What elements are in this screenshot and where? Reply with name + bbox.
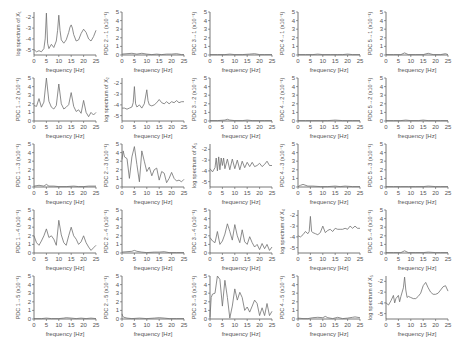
panel-3-3: 0510152025-5-4-3-2frequency [Hz]log spec… xyxy=(191,143,276,205)
x-tick-label: 5 xyxy=(133,58,137,64)
y-axis-label: PDC 5→3 (x10⁻¹) xyxy=(367,144,373,188)
y-tick-label: 5 xyxy=(292,9,296,15)
y-tick-label: 1 xyxy=(116,175,120,181)
x-tick-label: 5 xyxy=(45,124,49,130)
x-tick-label: 25 xyxy=(357,58,364,64)
x-tick-label: 10 xyxy=(55,256,62,262)
y-tick-label: -5 xyxy=(26,47,32,53)
x-tick-label: 5 xyxy=(45,256,49,262)
y-tick-label: 5 xyxy=(28,207,32,213)
x-tick-label: 15 xyxy=(68,256,75,262)
x-tick-label: 10 xyxy=(143,322,150,328)
y-tick-label: 4 xyxy=(204,216,208,222)
x-tick-label: 10 xyxy=(143,190,150,196)
x-tick-label: 0 xyxy=(296,190,300,196)
y-axis-label: PDC 1→5 (x10⁻¹) xyxy=(15,276,21,320)
x-tick-label: 5 xyxy=(133,256,137,262)
pdc-curve xyxy=(210,224,272,251)
panel-5-1: 0510152025012345frequency [Hz]PDC 1→5 (x… xyxy=(15,273,100,337)
x-tick-label: 20 xyxy=(432,322,439,328)
y-axis-label: PDC 4→3 (x10⁻¹) xyxy=(279,144,285,188)
x-axis-label: frequency [Hz] xyxy=(222,133,261,139)
y-tick-label: 1 xyxy=(204,109,208,115)
y-tick-label: 1 xyxy=(28,175,32,181)
x-axis-label: frequency [Hz] xyxy=(398,199,437,205)
y-tick-label: 0 xyxy=(116,184,120,190)
x-tick-label: 10 xyxy=(407,190,414,196)
x-tick-label: 0 xyxy=(296,124,300,130)
y-tick-label: 0 xyxy=(380,184,384,190)
y-tick-label: 3 xyxy=(292,26,296,32)
y-tick-label: 2 xyxy=(204,101,208,107)
pdc-curve xyxy=(386,120,448,121)
y-axis-label: PDC 4→5 (x10⁻¹) xyxy=(279,276,285,320)
x-tick-label: 25 xyxy=(357,124,364,130)
y-tick-label: 1 xyxy=(204,43,208,49)
y-tick-label: 2 xyxy=(292,101,296,107)
x-axis-label: frequency [Hz] xyxy=(46,133,85,139)
panel-5-4: 0510152025012345frequency [Hz]PDC 4→5 (x… xyxy=(279,273,364,337)
y-tick-label: 0 xyxy=(380,250,384,256)
y-tick-label: 5 xyxy=(380,75,384,81)
x-tick-label: 15 xyxy=(68,124,75,130)
x-tick-label: 0 xyxy=(120,256,124,262)
pdc-curve xyxy=(122,53,184,54)
x-tick-label: 5 xyxy=(45,190,49,196)
x-tick-label: 25 xyxy=(269,58,276,64)
x-tick-label: 25 xyxy=(181,58,188,64)
y-tick-label: -5 xyxy=(378,311,384,317)
panel-2-2: 0510152025-5-4-3-2frequency [Hz]log spec… xyxy=(103,77,188,139)
x-tick-label: 25 xyxy=(181,190,188,196)
y-tick-label: 5 xyxy=(116,9,120,15)
y-tick-label: -2 xyxy=(378,278,384,284)
x-tick-label: 0 xyxy=(32,190,36,196)
y-tick-label: 2 xyxy=(28,167,32,173)
x-tick-label: 15 xyxy=(244,190,251,196)
y-tick-label: 1 xyxy=(204,307,208,313)
x-tick-label: 5 xyxy=(221,124,225,130)
y-tick-label: 1 xyxy=(292,43,296,49)
panel-5-3: 0510152025012345frequency [Hz]PDC 3→5 (x… xyxy=(191,273,276,337)
x-tick-label: 5 xyxy=(309,322,313,328)
x-tick-label: 10 xyxy=(231,124,238,130)
x-axis-label: frequency [Hz] xyxy=(310,265,349,271)
pdc-curve xyxy=(298,184,360,186)
y-tick-label: 4 xyxy=(116,282,120,288)
x-tick-label: 10 xyxy=(231,322,238,328)
y-tick-label: -5 xyxy=(202,179,208,185)
x-tick-label: 25 xyxy=(445,190,452,196)
y-tick-label: 2 xyxy=(116,167,120,173)
x-tick-label: 5 xyxy=(397,190,401,196)
pdc-curve xyxy=(210,119,272,120)
y-tick-label: 0 xyxy=(204,52,208,58)
x-tick-label: 10 xyxy=(407,322,414,328)
y-tick-label: 2 xyxy=(380,233,384,239)
y-tick-label: -3 xyxy=(378,289,384,295)
y-tick-label: 2 xyxy=(28,299,32,305)
y-tick-label: 4 xyxy=(28,216,32,222)
x-tick-label: 20 xyxy=(432,256,439,262)
y-tick-label: 1 xyxy=(116,43,120,49)
x-tick-label: 25 xyxy=(269,256,276,262)
x-tick-label: 10 xyxy=(319,190,326,196)
x-tick-label: 10 xyxy=(231,256,238,262)
y-tick-label: 1 xyxy=(204,241,208,247)
x-tick-label: 25 xyxy=(357,322,364,328)
x-tick-label: 15 xyxy=(244,124,251,130)
x-tick-label: 20 xyxy=(344,190,351,196)
x-axis-label: frequency [Hz] xyxy=(398,331,437,337)
pdc-curve xyxy=(210,276,272,318)
y-axis-label: PDC 2→5 (x10⁻¹) xyxy=(103,276,109,320)
spectrum-curve xyxy=(122,87,184,110)
y-tick-label: -5 xyxy=(114,113,120,119)
y-tick-label: 1 xyxy=(380,175,384,181)
y-tick-label: 4 xyxy=(292,150,296,156)
y-tick-label: 3 xyxy=(204,290,208,296)
y-tick-label: 5 xyxy=(292,273,296,279)
x-tick-label: 15 xyxy=(332,58,339,64)
x-tick-label: 20 xyxy=(432,58,439,64)
x-tick-label: 25 xyxy=(93,190,100,196)
x-tick-label: 10 xyxy=(407,256,414,262)
y-axis-label: PDC 1→3 (x10⁻¹) xyxy=(15,144,21,188)
spectrum-curve xyxy=(386,277,448,305)
